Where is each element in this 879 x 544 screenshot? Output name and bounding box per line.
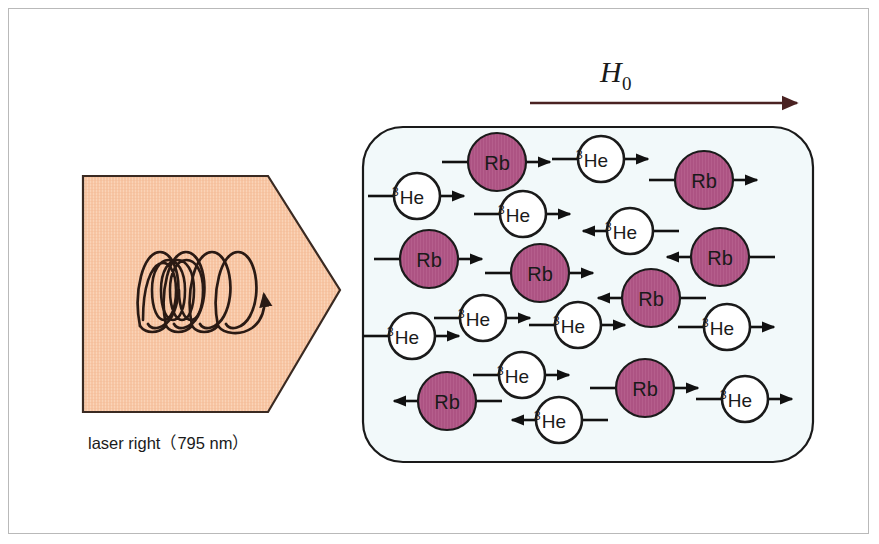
laser-caption: laser right（795 nm）	[88, 434, 249, 452]
rb-label: Rb	[434, 391, 460, 413]
laser-beam-group: laser right（795 nm）	[83, 176, 340, 452]
rb-label: Rb	[416, 249, 442, 271]
figure-root: H 0 laser right（795 nm）	[0, 0, 879, 544]
magnetic-field-group: H 0	[530, 55, 797, 103]
laser-block-shape	[83, 176, 340, 412]
rb-label: Rb	[638, 288, 664, 310]
field-label-subscript: 0	[622, 73, 632, 94]
rb-label: Rb	[691, 170, 717, 192]
rb-label: Rb	[484, 152, 510, 174]
rb-label: Rb	[632, 378, 658, 400]
field-label-H: H	[599, 55, 624, 88]
rb-label: Rb	[707, 247, 733, 269]
diagram-canvas: H 0 laser right（795 nm）	[0, 0, 879, 544]
rb-label: Rb	[527, 263, 553, 285]
